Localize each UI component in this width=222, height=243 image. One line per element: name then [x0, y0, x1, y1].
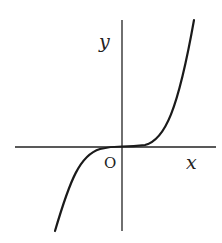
y-axis-label: y [98, 30, 110, 52]
x-axis-label: x [186, 151, 197, 173]
cubic-curve [55, 20, 194, 231]
origin-label: O [104, 154, 116, 172]
cubic-graph-figure: y x O [0, 0, 222, 243]
graph-canvas: y x O [0, 0, 222, 243]
